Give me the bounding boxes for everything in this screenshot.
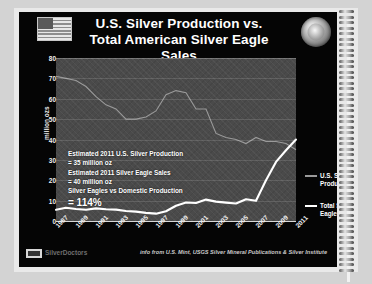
binding-ring <box>339 98 354 101</box>
binding-ring <box>339 164 354 167</box>
binding-ring <box>339 203 354 206</box>
binding-ring <box>339 21 354 24</box>
binding-ring <box>339 76 354 79</box>
gridline-40 <box>56 140 296 141</box>
binding-ring <box>339 16 354 19</box>
binding-ring <box>339 225 354 228</box>
binding-ring <box>339 65 354 68</box>
binding-ring <box>339 32 354 35</box>
annotation-line-5: Silver Eagles vs Domestic Production <box>68 187 183 194</box>
binding-ring <box>339 104 354 107</box>
legend-eagles-line2: Eagles <box>320 210 337 217</box>
binding-ring <box>339 148 354 151</box>
annotation-highlight: = 114% <box>68 196 183 209</box>
source-credit: info from U.S. Mint, USGS Silver Mineral… <box>140 249 327 255</box>
legend-item-eagles: Total Silver Eagles <box>305 202 337 219</box>
binding-ring <box>339 54 354 57</box>
y-tick-60: 60 <box>34 95 56 102</box>
binding-ring <box>339 120 354 123</box>
binding-ring <box>339 109 354 112</box>
binding-ring <box>339 137 354 140</box>
binding-ring <box>339 208 354 211</box>
binding-ring <box>339 175 354 178</box>
binding-ring <box>339 126 354 129</box>
binding-ring <box>339 49 354 52</box>
binding-ring <box>339 27 354 30</box>
presentation-slide: U.S. Silver Production vs. Total America… <box>19 12 337 267</box>
binding-ring <box>339 192 354 195</box>
gridline-50 <box>56 119 296 120</box>
binding-ring <box>339 10 354 13</box>
binding-ring <box>339 186 354 189</box>
binding-ring <box>339 252 354 255</box>
silver-eagle-coin-icon <box>301 17 331 47</box>
legend-production-line1: U.S. Silver <box>320 172 337 179</box>
flag-canton <box>38 18 53 29</box>
spiral-binding <box>339 10 355 272</box>
annotation-line-2: = 35 million oz <box>68 159 112 166</box>
annotation-line-4: = 40 million oz <box>68 178 112 185</box>
y-tick-80: 80 <box>34 55 56 62</box>
binding-ring <box>339 82 354 85</box>
chart-annotation: Estimated 2011 U.S. Silver Production = … <box>68 149 183 209</box>
binding-ring <box>339 236 354 239</box>
binding-ring <box>339 93 354 96</box>
legend-swatch-eagles <box>305 205 317 208</box>
gridline-70 <box>56 78 296 79</box>
legend-production-line2: Production <box>320 180 337 187</box>
chart-legend: U.S. Silver Production Total Silver Eagl… <box>305 172 337 232</box>
binding-ring <box>339 258 354 261</box>
y-axis-label: million ozs <box>43 106 50 140</box>
y-tick-50: 50 <box>34 116 56 123</box>
binding-ring <box>339 247 354 250</box>
binding-ring <box>339 181 354 184</box>
binding-ring <box>339 131 354 134</box>
title-line-1: U.S. Silver Production vs. <box>96 16 263 31</box>
binding-ring <box>339 60 354 63</box>
us-flag-icon <box>37 17 72 41</box>
binding-ring <box>339 230 354 233</box>
binding-ring <box>339 43 354 46</box>
binding-ring <box>339 219 354 222</box>
y-tick-20: 20 <box>34 177 56 184</box>
slide-footer: SilverDoctors info from U.S. Mint, USGS … <box>19 248 337 262</box>
y-tick-30: 30 <box>34 156 56 163</box>
binding-ring <box>339 38 354 41</box>
binding-ring <box>339 115 354 118</box>
gridline-60 <box>56 99 296 100</box>
gridline-80 <box>56 58 296 59</box>
legend-item-production: U.S. Silver Production <box>305 172 337 189</box>
screenshot-root: U.S. Silver Production vs. Total America… <box>0 0 372 284</box>
y-tick-10: 10 <box>34 197 56 204</box>
legend-eagles-line1: Total Silver <box>320 202 337 209</box>
binding-ring <box>339 263 354 266</box>
binding-ring <box>339 87 354 90</box>
annotation-line-1: Estimated 2011 U.S. Silver Production <box>68 150 183 157</box>
coin-eagle-relief <box>306 22 325 41</box>
binding-ring <box>339 241 354 244</box>
annotation-line-3: Estimated 2011 Silver Eagle Sales <box>68 169 171 176</box>
binding-ring <box>339 269 354 272</box>
binding-ring <box>339 71 354 74</box>
legend-swatch-production <box>305 175 317 177</box>
binding-ring <box>339 159 354 162</box>
y-tick-70: 70 <box>34 75 56 82</box>
binding-ring <box>339 214 354 217</box>
brand-logo-icon <box>26 249 42 258</box>
y-tick-40: 40 <box>34 136 56 143</box>
page-title: U.S. Silver Production vs. Total America… <box>75 16 283 64</box>
binding-ring <box>339 142 354 145</box>
binding-ring <box>339 197 354 200</box>
binding-ring <box>339 153 354 156</box>
binding-ring <box>339 170 354 173</box>
brand-name: SilverDoctors <box>45 249 87 256</box>
